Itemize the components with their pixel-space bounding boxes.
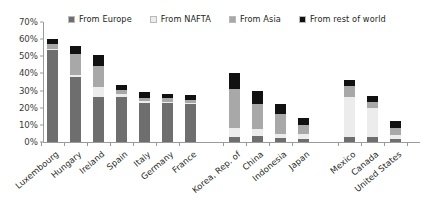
bar-segment-from-europe <box>185 104 196 142</box>
bar-segment-from-europe <box>390 139 401 142</box>
x-axis-tick-mark <box>269 142 270 146</box>
x-axis-tick-mark <box>64 142 65 146</box>
bar-segment-from-europe <box>93 97 104 142</box>
bar-luxembourg[interactable] <box>47 39 58 142</box>
bar-segment-from-europe <box>344 137 355 142</box>
y-axis-tick-mark <box>40 124 43 125</box>
y-axis-tick-mark <box>40 39 43 40</box>
bar-mexico[interactable] <box>344 80 355 142</box>
y-axis-tick-label: 50% <box>19 51 38 61</box>
bar-segment-from-rest-of-world <box>390 121 401 128</box>
bar-segment-from-europe <box>252 136 263 142</box>
bar-segment-from-asia <box>252 104 263 129</box>
bar-italy[interactable] <box>139 92 150 142</box>
bar-segment-from-europe <box>47 50 58 142</box>
y-axis-tick-mark <box>40 22 43 23</box>
y-axis-tick-mark <box>40 107 43 108</box>
y-axis-tick-label: 70% <box>19 17 38 27</box>
bar-hungary[interactable] <box>70 46 81 142</box>
bar-segment-from-europe <box>298 139 309 142</box>
bar-segment-from-asia <box>93 66 104 87</box>
bar-segment-from-rest-of-world <box>252 91 263 105</box>
x-axis-label-spain: Spain <box>105 149 130 172</box>
bar-segment-from-rest-of-world <box>70 46 81 54</box>
bar-segment-from-rest-of-world <box>93 55 104 65</box>
bar-united-states[interactable] <box>390 121 401 142</box>
bar-canada[interactable] <box>367 96 378 142</box>
bar-segment-from-nafta <box>93 87 104 97</box>
bar-segment-from-europe <box>162 103 173 142</box>
y-axis-tick-mark <box>40 90 43 91</box>
x-axis-label-ireland: Ireland <box>77 149 106 176</box>
plot-area: 0%10%20%30%40%50%60%70% <box>43 22 420 142</box>
bar-segment-from-nafta <box>367 108 378 137</box>
bar-segment-from-europe <box>139 103 150 142</box>
bar-segment-from-nafta <box>344 97 355 136</box>
y-axis-tick-label: 40% <box>19 68 38 78</box>
y-axis-tick-mark <box>40 56 43 57</box>
x-axis-tick-mark <box>110 142 111 146</box>
bar-china[interactable] <box>252 91 263 142</box>
x-axis-line <box>43 142 420 143</box>
y-axis-tick-label: 20% <box>19 103 38 113</box>
bar-segment-from-asia <box>344 86 355 97</box>
x-axis-tick-mark <box>223 142 224 146</box>
bar-segment-from-europe <box>70 77 81 142</box>
bar-spain[interactable] <box>116 85 127 142</box>
bar-korea-rep-of[interactable] <box>229 73 240 142</box>
x-axis-tick-mark <box>292 142 293 146</box>
bar-japan[interactable] <box>298 118 309 142</box>
x-axis-tick-mark <box>361 142 362 146</box>
x-axis-tick-mark <box>133 142 134 146</box>
bar-ireland[interactable] <box>93 55 104 142</box>
bar-segment-from-rest-of-world <box>298 118 309 125</box>
x-axis-tick-mark <box>87 142 88 146</box>
bar-segment-from-rest-of-world <box>229 73 240 88</box>
x-axis-tick-mark <box>156 142 157 146</box>
y-axis-tick-label: 30% <box>19 86 38 96</box>
bar-segment-from-asia <box>229 89 240 128</box>
bar-france[interactable] <box>185 95 196 142</box>
y-axis-tick-label: 0% <box>24 137 38 147</box>
y-axis-tick-label: 10% <box>19 120 38 130</box>
bar-segment-from-europe <box>116 97 127 142</box>
x-axis-tick-mark <box>41 142 42 146</box>
x-axis-tick-mark <box>384 142 385 146</box>
bar-segment-from-europe <box>367 137 378 142</box>
bar-indonesia[interactable] <box>275 104 286 142</box>
bar-segment-from-nafta <box>252 129 263 136</box>
x-axis-label-france: France <box>170 149 198 175</box>
bar-segment-from-europe <box>275 138 286 142</box>
y-axis-tick-label: 60% <box>19 34 38 44</box>
bar-segment-from-europe <box>229 137 240 142</box>
stacked-bar-chart: From Europe From NAFTA From Asia From re… <box>0 0 424 209</box>
bar-segment-from-rest-of-world <box>275 104 286 113</box>
x-axis-tick-mark <box>246 142 247 146</box>
x-axis-tick-mark <box>407 142 408 146</box>
bar-segment-from-asia <box>275 114 286 135</box>
bar-segment-from-asia <box>298 125 309 134</box>
x-axis-label-japan: Japan <box>287 149 312 172</box>
bar-segment-from-nafta <box>229 128 240 137</box>
bar-segment-from-asia <box>390 128 401 135</box>
y-axis-tick-mark <box>40 73 43 74</box>
x-axis-tick-mark <box>179 142 180 146</box>
bar-segment-from-asia <box>70 54 81 75</box>
bar-germany[interactable] <box>162 94 173 142</box>
x-axis-tick-mark <box>338 142 339 146</box>
